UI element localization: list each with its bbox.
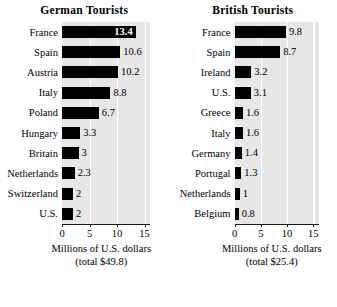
gridline bbox=[261, 184, 262, 204]
gridline bbox=[90, 143, 91, 163]
bar-value-label: 2.3 bbox=[78, 168, 91, 179]
x-axis-label-german: Millions of U.S. dollars bbox=[34, 242, 169, 256]
x-tick-mark bbox=[235, 224, 236, 227]
x-tick-label: 0 bbox=[232, 228, 237, 239]
gridline bbox=[313, 184, 314, 204]
x-tick-mark bbox=[261, 224, 262, 227]
bar bbox=[235, 26, 286, 38]
x-axis-total-german: (total $49.8) bbox=[34, 255, 169, 269]
bar-row: Italy8.8 bbox=[0, 83, 169, 103]
x-tick-label: 0 bbox=[59, 228, 64, 239]
category-label: Britain bbox=[0, 148, 62, 159]
x-tick-mark bbox=[90, 224, 91, 227]
axis-spacer bbox=[169, 224, 235, 242]
gridline bbox=[261, 143, 262, 163]
bar-track: 10.2 bbox=[62, 62, 150, 82]
category-label: Netherlands bbox=[169, 188, 235, 199]
gridline bbox=[287, 83, 288, 103]
x-tick-label: 5 bbox=[258, 228, 263, 239]
gridline bbox=[117, 184, 118, 204]
bar-track: 3.2 bbox=[235, 62, 319, 82]
gridline bbox=[90, 184, 91, 204]
bar bbox=[235, 66, 252, 78]
bar-track: 3.1 bbox=[235, 83, 319, 103]
gridline bbox=[117, 103, 118, 123]
bar-row: Netherlands2.3 bbox=[0, 163, 169, 183]
bar-track: 1.3 bbox=[235, 163, 319, 183]
gridline bbox=[313, 123, 314, 143]
gridline bbox=[145, 163, 146, 183]
gridline bbox=[145, 143, 146, 163]
x-tick-label: 10 bbox=[282, 228, 293, 239]
category-label: Ireland bbox=[169, 67, 235, 78]
gridline bbox=[145, 22, 146, 42]
x-axis-line bbox=[62, 224, 150, 225]
bar-value-label: 1 bbox=[243, 188, 248, 199]
gridline bbox=[145, 184, 146, 204]
bar-row: Spain10.6 bbox=[0, 42, 169, 62]
bar-row: U.S.2 bbox=[0, 204, 169, 224]
gridline bbox=[261, 123, 262, 143]
bar-track: 2 bbox=[62, 204, 150, 224]
bar bbox=[62, 208, 73, 220]
bar-track: 8.8 bbox=[62, 83, 150, 103]
bar-value-label: 3.3 bbox=[83, 128, 96, 139]
bar-row: France13.4 bbox=[0, 22, 169, 42]
category-label: Greece bbox=[169, 107, 235, 118]
plot-area-german: France13.4Spain10.6Austria10.2Italy8.8Po… bbox=[0, 22, 169, 269]
axis-spacer bbox=[0, 224, 62, 242]
bar-value-label: 3.1 bbox=[254, 87, 267, 98]
bar bbox=[62, 188, 73, 200]
category-label: Belgium bbox=[169, 208, 235, 219]
bar-value-label: 2 bbox=[76, 188, 81, 199]
gridline bbox=[145, 103, 146, 123]
x-axis-label-british: Millions of U.S. dollars bbox=[207, 242, 337, 256]
bar-value-label: 1.3 bbox=[244, 168, 257, 179]
gridline bbox=[313, 143, 314, 163]
bar-track: 1.6 bbox=[235, 123, 319, 143]
gridline bbox=[313, 204, 314, 224]
category-label: France bbox=[169, 27, 235, 38]
bar bbox=[235, 167, 242, 179]
gridline bbox=[145, 204, 146, 224]
category-label: Poland bbox=[0, 107, 62, 118]
gridline bbox=[261, 204, 262, 224]
bar bbox=[62, 46, 120, 58]
x-axis-total-british: (total $25.4) bbox=[207, 255, 337, 269]
gridline bbox=[117, 143, 118, 163]
gridline bbox=[145, 62, 146, 82]
x-tick-label: 15 bbox=[308, 228, 319, 239]
gridline bbox=[313, 163, 314, 183]
gridline bbox=[117, 204, 118, 224]
gridline bbox=[145, 83, 146, 103]
bar bbox=[235, 87, 251, 99]
gridline bbox=[313, 62, 314, 82]
gridline bbox=[261, 103, 262, 123]
bar-row: Italy1.6 bbox=[169, 123, 337, 143]
bar-row: Austria10.2 bbox=[0, 62, 169, 82]
bar bbox=[62, 147, 79, 159]
gridline bbox=[145, 42, 146, 62]
bar bbox=[62, 66, 118, 78]
gridline bbox=[287, 184, 288, 204]
gridline bbox=[90, 204, 91, 224]
bar bbox=[62, 87, 110, 99]
bar-track: 3 bbox=[62, 143, 150, 163]
gridline bbox=[145, 123, 146, 143]
bar-value-label: 1.6 bbox=[246, 108, 259, 119]
bar-value-label: 3 bbox=[82, 148, 87, 159]
bar-track: 13.4 bbox=[62, 22, 150, 42]
gridline bbox=[313, 83, 314, 103]
bar-track: 10.6 bbox=[62, 42, 150, 62]
bar bbox=[235, 208, 239, 220]
x-axis-german: 051015 bbox=[62, 224, 150, 242]
gridline bbox=[117, 123, 118, 143]
bar-row: Netherlands1 bbox=[169, 184, 337, 204]
x-tick-mark bbox=[287, 224, 288, 227]
bar-row: Portugal1.3 bbox=[169, 163, 337, 183]
tourist-spending-figure: German Tourists France13.4Spain10.6Austr… bbox=[0, 0, 337, 307]
bar-row: France9.8 bbox=[169, 22, 337, 42]
bar-row: Germany1.4 bbox=[169, 143, 337, 163]
category-label: Netherlands bbox=[0, 168, 62, 179]
category-label: Hungary bbox=[0, 128, 62, 139]
